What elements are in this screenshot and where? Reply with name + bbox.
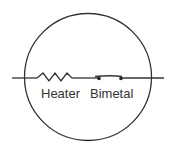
enclosure-circle [25, 14, 152, 141]
heater-resistor-symbol [37, 73, 72, 81]
heater-label: Heater [41, 86, 81, 101]
bimetal-switch-symbol [95, 76, 123, 81]
bimetal-label: Bimetal [90, 86, 133, 101]
thermal-switch-diagram: Heater Bimetal [0, 0, 172, 149]
